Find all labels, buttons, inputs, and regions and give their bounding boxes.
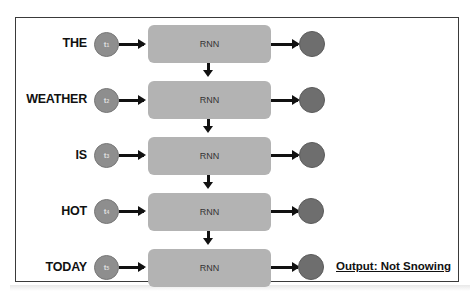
hidden-state-arrow — [207, 63, 210, 74]
rnn-cell: RNN — [148, 25, 271, 63]
output-arrow — [271, 266, 298, 269]
input-node-subscript: 3 — [106, 153, 109, 159]
input-arrow — [119, 266, 144, 269]
rnn-cell: RNN — [148, 193, 271, 231]
input-node: t3 — [94, 143, 119, 168]
word-label: HOT — [17, 204, 87, 218]
output-node — [299, 87, 325, 113]
hidden-state-arrow — [207, 119, 210, 130]
hidden-state-arrow — [207, 231, 210, 242]
output-arrow — [271, 154, 298, 157]
word-label: TODAY — [17, 260, 87, 274]
rnn-cell: RNN — [148, 249, 271, 287]
input-arrow — [119, 99, 144, 102]
input-arrow — [119, 43, 144, 46]
hidden-state-arrow — [207, 175, 210, 186]
output-node — [298, 198, 324, 224]
input-node: t5 — [94, 255, 119, 280]
output-node — [299, 31, 325, 57]
output-arrow — [271, 210, 298, 213]
word-label: THE — [17, 36, 87, 50]
word-label: WEATHER — [17, 92, 87, 106]
input-node-subscript: 5 — [106, 265, 109, 271]
rnn-cell: RNN — [148, 81, 271, 119]
output-label: Output: Not Snowing — [336, 260, 451, 272]
word-label: IS — [17, 148, 87, 162]
output-arrow — [271, 99, 298, 102]
output-node — [299, 142, 325, 168]
input-node-subscript: 1 — [106, 42, 109, 48]
input-arrow — [119, 210, 144, 213]
input-arrow — [119, 154, 144, 157]
input-node: t4 — [94, 199, 119, 224]
input-node: t1 — [94, 32, 119, 57]
output-node — [298, 254, 324, 280]
input-node-subscript: 2 — [106, 98, 109, 104]
input-node: t2 — [94, 88, 119, 113]
input-node-subscript: 4 — [106, 209, 109, 215]
output-arrow — [271, 43, 298, 46]
rnn-cell: RNN — [148, 137, 271, 175]
